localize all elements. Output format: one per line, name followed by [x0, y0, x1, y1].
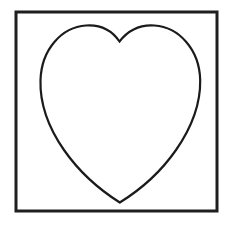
- heart-artwork: Black line drawing of a heart shape cent…: [0, 0, 231, 227]
- drawing-canvas: Black line drawing of a heart shape cent…: [0, 0, 231, 227]
- heart-outline: [40, 25, 200, 202]
